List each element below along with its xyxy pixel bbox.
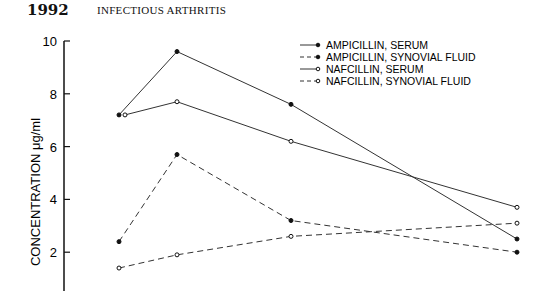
- legend-item: NAFCILLIN, SYNOVIAL FLUID: [300, 75, 471, 87]
- line-chart: 246810CONCENTRATION μg/mlAMPICILLIN, SER…: [0, 0, 543, 291]
- legend-item: NAFCILLIN, SERUM: [300, 63, 423, 75]
- legend-item: AMPICILLIN, SYNOVIAL FLUID: [300, 51, 476, 63]
- data-point: [123, 113, 127, 117]
- data-point: [175, 100, 179, 104]
- series-ampicillin-synovial-fluid: [117, 153, 519, 255]
- legend-label: AMPICILLIN, SERUM: [326, 39, 428, 51]
- data-point: [117, 240, 121, 244]
- y-tick-label: 2: [50, 245, 57, 260]
- y-tick-label: 8: [50, 87, 57, 102]
- data-point: [175, 253, 179, 257]
- data-point: [289, 102, 293, 106]
- legend-label: NAFCILLIN, SERUM: [326, 63, 423, 75]
- y-axis-label: CONCENTRATION μg/ml: [28, 118, 43, 266]
- y-tick-label: 6: [50, 140, 57, 155]
- legend-item: AMPICILLIN, SERUM: [300, 39, 428, 51]
- data-point: [117, 266, 121, 270]
- data-point: [515, 250, 519, 254]
- data-point: [515, 237, 519, 241]
- data-point: [289, 234, 293, 238]
- series-nafcillin-serum: [123, 100, 519, 210]
- data-point: [289, 139, 293, 143]
- data-point: [515, 205, 519, 209]
- series-nafcillin-synovial-fluid: [117, 221, 519, 270]
- legend-label: AMPICILLIN, SYNOVIAL FLUID: [326, 51, 476, 63]
- y-tick-label: 10: [43, 34, 57, 49]
- data-point: [175, 153, 179, 157]
- data-point: [289, 219, 293, 223]
- data-point: [175, 50, 179, 54]
- y-tick-label: 4: [50, 192, 57, 207]
- legend-label: NAFCILLIN, SYNOVIAL FLUID: [326, 75, 471, 87]
- data-point: [117, 113, 121, 117]
- data-point: [515, 221, 519, 225]
